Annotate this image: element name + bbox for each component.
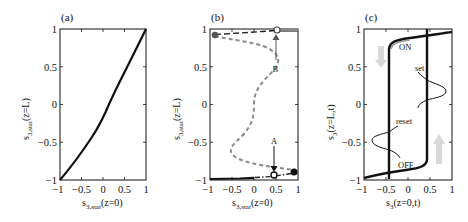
arrow-down-gray-icon (375, 46, 387, 68)
panel-a-yticks: 1 0.5 0 −0.5 −1 (38, 24, 57, 186)
panel-c-label-off: OFF (398, 160, 414, 170)
svg-text:1: 1 (52, 24, 57, 35)
panel-b-marker-open-upper (274, 27, 280, 33)
panel-c-title: (c) (365, 11, 378, 24)
svg-text:0.5: 0.5 (194, 62, 207, 73)
arrow-up-gray-icon (433, 134, 445, 164)
svg-text:−1: −1 (52, 184, 63, 195)
panel-b-marker-filled-upper (212, 32, 219, 39)
svg-text:−0.5: −0.5 (222, 184, 241, 195)
panel-c-set-pulse (418, 72, 446, 108)
svg-text:0.5: 0.5 (423, 184, 436, 195)
panel-c-on-branch (389, 32, 452, 179)
svg-text:1: 1 (449, 184, 454, 195)
svg-text:−0.5: −0.5 (72, 184, 91, 195)
arrowhead-down-icon (271, 166, 278, 172)
panel-a-ylabel: s3,stat(z=L) (20, 98, 34, 140)
panel-a-axes-box (60, 29, 146, 180)
panel-b-jump-upper (215, 31, 275, 35)
panel-c: (c) 1 0.5 0 −0.5 −1 −1 −0.5 0 0.5 1 s3(z… (325, 11, 455, 211)
panel-b-ylabel: s3,stat(z=L) (171, 98, 185, 140)
panel-c-xlabel: s3(z=0,t) (386, 197, 420, 211)
svg-text:1: 1 (295, 184, 300, 195)
panel-a-xticks: −1 −0.5 0 0.5 1 (52, 184, 148, 195)
panel-a-title: (a) (61, 11, 74, 24)
svg-text:−0.5: −0.5 (376, 184, 395, 195)
svg-text:0.5: 0.5 (269, 184, 282, 195)
arrowhead-up-icon (273, 34, 280, 40)
panel-c-label-reset: reset (396, 116, 413, 126)
svg-text:0: 0 (202, 99, 207, 110)
panel-a-ticks (60, 29, 146, 180)
panel-c-reset-pulse (372, 126, 400, 158)
svg-text:−1: −1 (202, 184, 213, 195)
panel-a-curve (60, 29, 146, 180)
panel-a: (a) 1 0.5 0 −0.5 −1 −1 −0.5 0 0.5 1 s3,s… (20, 11, 149, 211)
panel-c-label-set: set (415, 63, 425, 73)
svg-text:0: 0 (52, 99, 57, 110)
svg-text:0.5: 0.5 (348, 62, 361, 73)
svg-text:0: 0 (356, 99, 361, 110)
panel-b-label-b: B (273, 64, 279, 74)
panel-c-off-branch (364, 29, 427, 178)
panel-b-xticks: −1 −0.5 0 0.5 1 (202, 184, 300, 195)
svg-text:−0.5: −0.5 (342, 137, 361, 148)
svg-text:1: 1 (202, 24, 207, 35)
panel-b-unstable-curve (215, 36, 296, 170)
panel-c-label-on: ON (399, 42, 411, 52)
panel-b-xlabel: s3,stat(z=0) (232, 197, 273, 211)
panel-c-yticks: 1 0.5 0 −0.5 −1 (342, 24, 361, 186)
panel-b-label-a: A (271, 136, 278, 146)
svg-text:−1: −1 (356, 184, 367, 195)
figure: (a) 1 0.5 0 −0.5 −1 −1 −0.5 0 0.5 1 s3,s… (0, 0, 468, 222)
panel-a-xlabel: s3,stat(z=0) (82, 197, 123, 211)
panel-c-xticks: −1 −0.5 0 0.5 1 (356, 184, 454, 195)
panel-b: (b) 1 0.5 0 −0.5 −1 −1 −0.5 0 0.5 1 s3,s… (171, 11, 301, 211)
svg-text:0: 0 (251, 184, 256, 195)
panel-b-marker-open-lower (271, 172, 277, 178)
svg-text:1: 1 (356, 24, 361, 35)
panel-b-title: (b) (211, 11, 224, 24)
svg-text:0: 0 (100, 184, 105, 195)
panel-c-ylabel: s3(z=L,t) (325, 104, 339, 140)
panel-b-yticks: 1 0.5 0 −0.5 −1 (188, 24, 207, 186)
svg-text:0.5: 0.5 (118, 184, 131, 195)
svg-text:1: 1 (143, 184, 148, 195)
svg-text:0: 0 (405, 184, 410, 195)
panel-b-marker-filled-lower (291, 169, 298, 176)
panel-b-stable-lower (210, 178, 254, 179)
svg-text:−0.5: −0.5 (38, 137, 57, 148)
svg-text:0.5: 0.5 (44, 62, 57, 73)
svg-text:−0.5: −0.5 (188, 137, 207, 148)
